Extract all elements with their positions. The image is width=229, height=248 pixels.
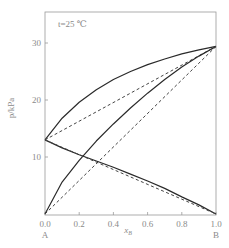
curves	[45, 46, 216, 214]
axis-ticks: 0.00.20.40.60.81.0102030	[32, 38, 222, 229]
ideal-line	[45, 46, 216, 139]
y-axis-label: p/kPa	[6, 98, 16, 119]
x-axis-label: xB	[123, 225, 132, 236]
plot-frame	[45, 12, 216, 215]
temperature-annotation: t=25 ℃	[58, 19, 87, 29]
y-tick-label: 20	[32, 95, 42, 105]
y-tick-label: 10	[32, 152, 42, 162]
x-tick-label: 0.2	[74, 219, 85, 229]
x-tick-label: 0.8	[176, 219, 188, 229]
x-tick-label: 0.6	[142, 219, 154, 229]
vapor-pressure-chart: 0.00.20.40.60.81.0102030 t=25 ℃ p/kPa xB…	[0, 0, 229, 248]
x-tick-label: 0.4	[108, 219, 120, 229]
x-tick-label: 1.0	[210, 219, 222, 229]
component-b-label: B	[213, 230, 219, 240]
component-a-label: A	[42, 230, 49, 240]
x-tick-label: 0.0	[39, 219, 51, 229]
y-tick-label: 30	[32, 38, 42, 48]
ideal-line	[45, 140, 216, 214]
